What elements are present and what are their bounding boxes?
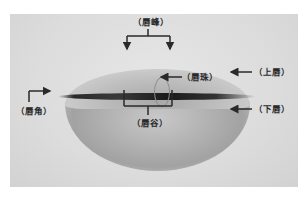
label-lip-peak: （唇峰） [133, 18, 169, 27]
label-lip-bead: （唇珠） [182, 73, 218, 82]
annotation-arrows [0, 0, 306, 197]
lip-valley-bracket [124, 90, 172, 115]
lip-peak-bracket [127, 29, 170, 49]
label-lower-lip: （下唇） [254, 105, 290, 114]
label-lip-corner: （唇角） [16, 107, 52, 116]
label-upper-lip: （上唇） [254, 68, 290, 77]
lip-corner-arrow [29, 91, 50, 102]
label-lip-valley: （唇谷） [132, 119, 168, 128]
